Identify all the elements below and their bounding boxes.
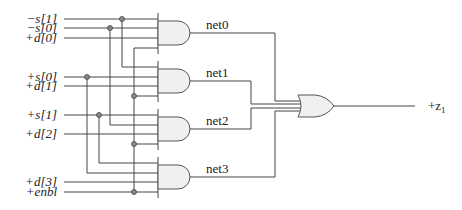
logic-circuit-diagram: −s[1] −s[0] +d[0] +s[0] +d[1] +s[1] +d[2… bbox=[0, 0, 462, 210]
output-nets bbox=[190, 33, 302, 177]
and-gate-0 bbox=[158, 21, 190, 45]
output-label: +z1 bbox=[428, 98, 446, 115]
input-label-d1: +d[1] bbox=[25, 78, 57, 93]
net0-label: net0 bbox=[206, 17, 228, 32]
input-label-enbl: +enbl bbox=[26, 184, 58, 199]
input-label-d0: +d[0] bbox=[25, 30, 57, 45]
net1-label: net1 bbox=[206, 65, 228, 80]
wires bbox=[64, 13, 158, 198]
net2-label: net2 bbox=[206, 113, 228, 128]
input-label-s1: +s[1] bbox=[27, 107, 57, 122]
and-gate-3 bbox=[158, 165, 190, 189]
or-gate bbox=[298, 95, 334, 117]
input-label-d2: +d[2] bbox=[25, 126, 57, 141]
and-gate-2 bbox=[158, 117, 190, 141]
and-gate-1 bbox=[158, 69, 190, 93]
net3-label: net3 bbox=[206, 161, 228, 176]
